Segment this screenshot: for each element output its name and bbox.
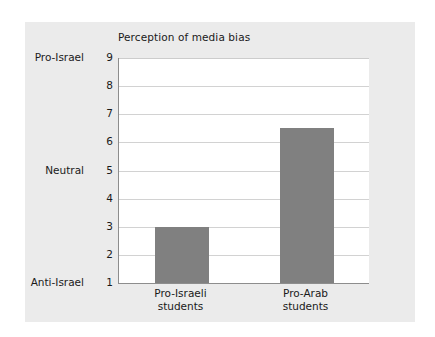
y-axis-tick-labels: 123456789 (87, 58, 113, 283)
bar (280, 128, 334, 283)
gridline (119, 58, 369, 59)
gridline (119, 86, 369, 87)
y-axis-tick-label: 3 (91, 220, 113, 232)
y-axis-tick-label: 2 (91, 248, 113, 260)
y-axis-tick-label: 4 (91, 192, 113, 204)
gridline (119, 114, 369, 115)
x-axis-category-label-line: students (118, 300, 243, 313)
x-axis-category-label-line: Pro-Israeli (118, 287, 243, 300)
y-axis-tick-label: 9 (91, 51, 113, 63)
plot-inner (119, 58, 369, 283)
figure-card: Perception of media bias Pro-Israel Neut… (25, 22, 415, 322)
chart-title: Perception of media bias (118, 31, 250, 43)
x-axis-category-label-line: students (243, 300, 368, 313)
y-axis-tick-label: 6 (91, 135, 113, 147)
y-axis-category-label-pro-israel: Pro-Israel (0, 51, 84, 63)
y-axis-tick-label: 7 (91, 107, 113, 119)
y-axis-category-labels: Pro-Israel Neutral Anti-Israel (0, 58, 84, 283)
plot-area (118, 58, 369, 284)
y-axis-category-label-anti-israel: Anti-Israel (0, 276, 84, 288)
x-axis-category-label: Pro-Israelistudents (118, 287, 243, 312)
bar (155, 227, 209, 283)
y-axis-tick-label: 5 (91, 164, 113, 176)
x-axis-category-label-line: Pro-Arab (243, 287, 368, 300)
y-axis-tick-label: 8 (91, 79, 113, 91)
y-axis-category-label-neutral: Neutral (0, 164, 84, 176)
y-axis-tick-label: 1 (91, 276, 113, 288)
x-axis-category-labels: Pro-IsraelistudentsPro-Arabstudents (118, 287, 368, 321)
x-axis-category-label: Pro-Arabstudents (243, 287, 368, 312)
